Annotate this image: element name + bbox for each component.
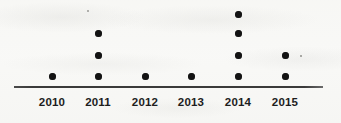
- data-point-dot: [235, 52, 242, 59]
- data-point-dot: [95, 52, 102, 59]
- x-axis-line: [14, 86, 323, 88]
- data-point-dot: [235, 11, 242, 18]
- scan-speck: [300, 55, 302, 57]
- data-point-dot: [49, 73, 56, 80]
- x-axis-tick-label-2015: 2015: [262, 95, 308, 109]
- scan-speck: [87, 10, 89, 12]
- data-point-dot: [282, 73, 289, 80]
- data-point-dot: [235, 30, 242, 37]
- x-axis-tick-label-2010: 2010: [29, 95, 75, 109]
- x-axis-tick-label-2013: 2013: [168, 95, 214, 109]
- data-point-dot: [95, 73, 102, 80]
- data-point-dot: [188, 73, 195, 80]
- data-point-dot: [142, 73, 149, 80]
- data-point-dot: [282, 52, 289, 59]
- x-axis-tick-label-group: 2010 2011 2012 2013 2014 2015: [0, 95, 341, 113]
- x-axis-tick-label-2011: 2011: [75, 95, 121, 109]
- x-axis-tick-label-2012: 2012: [122, 95, 168, 109]
- data-point-dot: [235, 73, 242, 80]
- dot-plot-figure: 2010 2011 2012 2013 2014 2015: [0, 0, 341, 123]
- data-point-dot: [95, 30, 102, 37]
- x-axis-tick-label-2014: 2014: [215, 95, 261, 109]
